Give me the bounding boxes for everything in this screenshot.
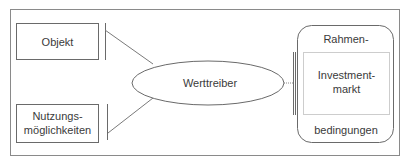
werttreiber-label: Werttreiber: [160, 76, 260, 90]
rahmen-label-bottom: bedingungen: [298, 123, 394, 137]
rahmen-label-top: Rahmen-: [298, 32, 394, 46]
investment-label: Investment- markt: [303, 68, 390, 96]
nutzung-label-line1: Nutzungs-: [16, 109, 99, 123]
nutzung-label-line2: möglichkeiten: [16, 123, 99, 137]
connector-nutzung: [108, 98, 153, 133]
nutzung-label: Nutzungs- möglichkeiten: [16, 109, 99, 137]
objekt-label: Objekt: [16, 35, 99, 49]
investment-label-line1: Investment-: [303, 68, 390, 82]
investment-label-line2: markt: [303, 82, 390, 96]
connector-objekt: [105, 30, 153, 64]
